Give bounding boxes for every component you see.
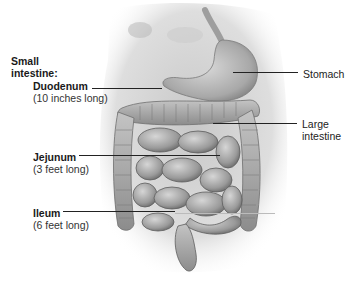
stomach-leader-line xyxy=(233,72,298,73)
ileum-leader-line xyxy=(63,211,175,212)
large-intestine-line1: Large xyxy=(302,118,341,130)
large-intestine-label: Large intestine xyxy=(302,118,341,142)
ileum-name: Ileum xyxy=(33,207,89,219)
jejunum-length: (3 feet long) xyxy=(33,163,89,175)
small-intestine-line2: intestine: xyxy=(11,67,58,79)
large-intestine-line2: intestine xyxy=(302,130,341,142)
duodenum-length: (10 inches long) xyxy=(33,92,108,104)
duodenum-name: Duodenum xyxy=(33,80,108,92)
stomach-label: Stomach xyxy=(303,68,344,80)
small-intestine-line1: Small xyxy=(11,55,58,67)
stomach-text: Stomach xyxy=(303,68,344,80)
ileum-length: (6 feet long) xyxy=(33,219,89,231)
intestine-illustration xyxy=(0,0,363,288)
duodenum-leader-line xyxy=(92,88,162,89)
small-intestine-group-label: Small intestine: xyxy=(11,55,58,79)
jejunum-leader-line xyxy=(79,155,220,156)
large-intestine-leader-line xyxy=(213,123,297,124)
jejunum-name: Jejunum xyxy=(33,151,89,163)
duodenum-label: Duodenum (10 inches long) xyxy=(33,80,108,104)
ileum-leader-line-extension xyxy=(175,213,275,214)
